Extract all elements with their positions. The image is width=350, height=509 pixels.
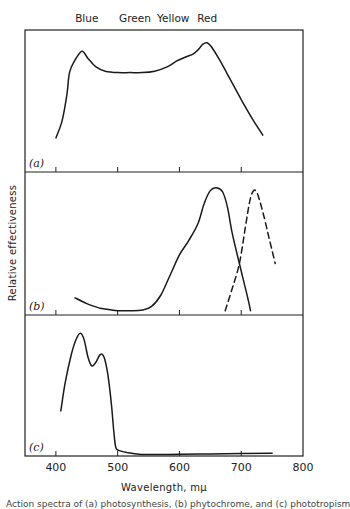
x-axis-ticks	[56, 167, 241, 456]
panel-labels: (a)(b)(c)	[29, 157, 45, 454]
figure-caption: Action spectra of (a) photosynthesis, (b…	[6, 499, 350, 509]
y-axis-title: Relative effectiveness	[7, 185, 18, 302]
spectral-curves	[56, 43, 275, 455]
color-label-blue: Blue	[75, 12, 98, 24]
color-label-red: Red	[197, 12, 217, 24]
curve-b-solid	[75, 188, 251, 311]
x-tick-label: 700	[231, 461, 252, 474]
x-axis-tick-labels: 400500600700800	[45, 461, 313, 474]
curve-b-dashed	[225, 190, 275, 311]
x-axis-title: Wavelength, mμ	[121, 482, 207, 493]
curve-a	[56, 43, 263, 138]
x-tick-label: 500	[107, 461, 128, 474]
panel-label-c: (c)	[29, 441, 44, 454]
panel-label-b: (b)	[29, 300, 45, 313]
color-band-labels: BlueGreenYellowRed	[75, 12, 217, 24]
color-label-yellow: Yellow	[156, 12, 190, 24]
x-tick-label: 800	[293, 461, 314, 474]
x-tick-label: 400	[45, 461, 66, 474]
curve-c	[61, 333, 272, 454]
x-tick-label: 600	[169, 461, 190, 474]
panel-label-a: (a)	[29, 157, 44, 170]
color-label-green: Green	[119, 12, 151, 24]
